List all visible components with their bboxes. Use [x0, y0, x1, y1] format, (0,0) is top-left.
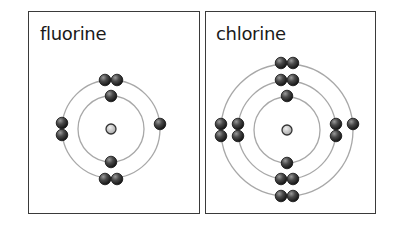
chlorine-electron [215, 118, 227, 130]
chlorine-electron [275, 190, 287, 202]
fluorine-electron [56, 129, 68, 141]
chlorine-nucleus [282, 125, 292, 135]
chlorine-electron [281, 90, 293, 102]
fluorine-electron [99, 173, 111, 185]
fluorine-electron [111, 74, 123, 86]
chlorine-electron [215, 130, 227, 142]
atom-diagrams [0, 0, 395, 229]
fluorine-electron [154, 118, 166, 130]
chlorine-electron [330, 118, 342, 130]
chlorine-electron [275, 173, 287, 185]
chlorine-electron [330, 130, 342, 142]
chlorine-electron [287, 74, 299, 86]
fluorine-electron [56, 117, 68, 129]
fluorine-nucleus [106, 124, 116, 134]
fluorine-electron [99, 74, 111, 86]
chlorine-electron [232, 130, 244, 142]
fluorine-electron [105, 156, 117, 168]
chlorine-electron [275, 74, 287, 86]
chlorine-electron [281, 157, 293, 169]
chlorine-electron [232, 118, 244, 130]
chlorine-electron [275, 57, 287, 69]
fluorine-electron [105, 90, 117, 102]
chlorine-electron [347, 118, 359, 130]
fluorine-electron [111, 173, 123, 185]
chlorine-electron [287, 190, 299, 202]
chlorine-electron [287, 173, 299, 185]
chlorine-electron [287, 57, 299, 69]
